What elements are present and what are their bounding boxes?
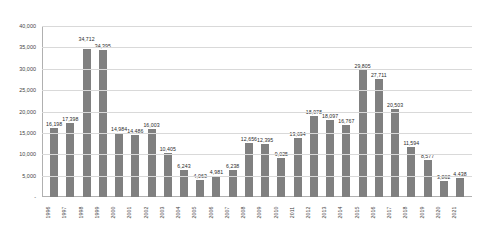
bar-value-label: 6,238	[226, 163, 239, 169]
x-axis-label-slot: 2012	[306, 199, 322, 221]
x-axis-tick-label: 2002	[143, 207, 160, 219]
y-axis-tick-label: 30,000	[19, 66, 36, 72]
x-axis-label-slot: 2020	[436, 199, 452, 221]
gridline	[42, 69, 472, 70]
y-axis-tick-label: 20,000	[19, 109, 36, 115]
x-axis-label-slot: 1999	[95, 199, 111, 221]
x-axis-label-slot: 2013	[322, 199, 338, 221]
gridline	[42, 133, 472, 134]
x-axis-label-slot: 2005	[192, 199, 208, 221]
x-axis-tick-label: 2010	[273, 207, 290, 219]
bar-value-label: 11,594	[403, 140, 419, 146]
bar-value-label: 12,656	[241, 136, 257, 142]
bar[interactable]: 6,243	[180, 170, 188, 197]
bar-value-label: 12,395	[257, 137, 273, 143]
x-axis-label-slot: 2006	[208, 199, 224, 221]
x-axis-tick-label: 2003	[159, 207, 176, 219]
x-axis-label-slot: 2004	[176, 199, 192, 221]
x-axis-tick-label: 2020	[435, 207, 452, 219]
gridline	[42, 112, 472, 113]
y-axis-tick-label: 15,000	[19, 130, 36, 136]
x-axis-label-slot: 2016	[371, 199, 387, 221]
bar[interactable]: 14,984	[115, 133, 123, 197]
x-axis-tick-label: 1999	[94, 207, 111, 219]
bar[interactable]: 16,198	[50, 128, 58, 197]
y-axis-tick-label: -	[34, 194, 36, 200]
x-axis-tick-label: 2005	[192, 207, 209, 219]
bar[interactable]: 18,978	[310, 116, 318, 197]
x-axis-tick-label: 1996	[46, 207, 63, 219]
bar-value-label: 4,981	[210, 169, 223, 175]
x-axis-label-slot: 2017	[387, 199, 403, 221]
bar[interactable]: 16,003	[148, 129, 156, 197]
x-axis-tick-label: 2007	[224, 207, 241, 219]
x-axis-tick-label: 2004	[175, 207, 192, 219]
x-axis-tick-label: 2006	[208, 207, 225, 219]
x-axis-label-slot: 2019	[419, 199, 435, 221]
bar[interactable]: 8,577	[424, 160, 432, 197]
x-axis-tick-label: 2013	[322, 207, 339, 219]
bar[interactable]: 20,503	[391, 109, 399, 197]
x-axis-tick-label: 2012	[305, 207, 322, 219]
x-axis-label-slot: 2010	[273, 199, 289, 221]
x-axis-tick-label: 2001	[127, 207, 144, 219]
bar[interactable]: 4,981	[212, 176, 220, 197]
bar[interactable]: 13,694	[294, 138, 302, 197]
x-axis-labels: 1996199719981999200020012002200320042005…	[42, 199, 472, 221]
x-axis-label-slot: 2011	[290, 199, 306, 221]
bar-value-label: 18,097	[322, 113, 338, 119]
y-axis-tick-label: 5,000	[22, 173, 36, 179]
y-axis-tick-label: 25,000	[19, 87, 36, 93]
y-axis-labels: -5,00010,00015,00020,00025,00030,00035,0…	[0, 26, 40, 197]
bar-value-label: 20,503	[387, 102, 403, 108]
x-axis-label-slot: 2003	[160, 199, 176, 221]
bar-value-label: 17,398	[62, 116, 78, 122]
x-axis-label-slot: 1996	[46, 199, 62, 221]
bar[interactable]: 18,097	[326, 120, 334, 197]
x-axis-label-slot: 2000	[111, 199, 127, 221]
x-axis-tick-label: 1998	[78, 207, 95, 219]
x-axis-label-slot: 2021	[452, 199, 468, 221]
bar[interactable]: 27,711	[375, 79, 383, 197]
bar[interactable]: 12,656	[245, 143, 253, 197]
y-axis-tick-label: 40,000	[19, 23, 36, 29]
bar-value-label: 6,243	[177, 163, 190, 169]
x-axis-tick-label: 2021	[451, 207, 468, 219]
plot-area: 16,19817,39834,71234,39514,98414,48616,0…	[42, 26, 472, 197]
x-axis-label-slot: 1998	[78, 199, 94, 221]
bar[interactable]: 12,395	[261, 144, 269, 197]
bar-value-label: 34,712	[78, 36, 94, 42]
gridline	[42, 176, 472, 177]
x-axis-label-slot: 2015	[354, 199, 370, 221]
x-axis-tick-label: 2000	[111, 207, 128, 219]
bar[interactable]: 9,025	[277, 158, 285, 197]
x-axis-tick-label: 2017	[387, 207, 404, 219]
bar-value-label: 27,711	[371, 72, 387, 78]
gridline	[42, 90, 472, 91]
bar-value-label: 29,805	[354, 63, 370, 69]
y-axis-tick-label: 35,000	[19, 44, 36, 50]
bar[interactable]: 3,862	[440, 181, 448, 198]
x-axis-label-slot: 1997	[62, 199, 78, 221]
x-axis-tick-label: 2008	[240, 207, 257, 219]
bar[interactable]: 16,767	[342, 125, 350, 197]
x-axis-tick-label: 2009	[257, 207, 274, 219]
x-axis-label-slot: 2009	[257, 199, 273, 221]
x-axis-label-slot: 2007	[225, 199, 241, 221]
bar[interactable]: 4,438	[456, 178, 464, 197]
bar[interactable]: 6,238	[229, 170, 237, 197]
x-axis-label-slot: 2001	[127, 199, 143, 221]
gridline	[42, 26, 472, 27]
x-axis-label-slot: 2002	[143, 199, 159, 221]
x-axis-label-slot: 2014	[338, 199, 354, 221]
bar-value-label: 16,198	[46, 121, 62, 127]
x-axis-tick-label: 2018	[403, 207, 420, 219]
x-axis-tick-label: 2019	[419, 207, 436, 219]
x-axis-tick-label: 2015	[354, 207, 371, 219]
bar-value-label: 10,405	[160, 146, 176, 152]
x-axis-label-slot: 2008	[241, 199, 257, 221]
bar-value-label: 14,984	[111, 126, 127, 132]
bar[interactable]: 4,063	[196, 180, 204, 197]
bar[interactable]: 14,486	[131, 135, 139, 197]
y-axis-tick-label: 10,000	[19, 151, 36, 157]
